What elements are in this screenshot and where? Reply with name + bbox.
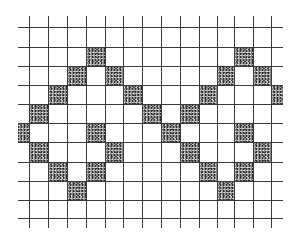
shaded-cell bbox=[234, 123, 253, 142]
shaded-cell bbox=[67, 181, 86, 200]
shaded-cell bbox=[18, 123, 29, 142]
shaded-cell bbox=[199, 85, 217, 104]
shaded-cell bbox=[217, 66, 234, 85]
shaded-cell bbox=[105, 66, 123, 85]
shaded-cell bbox=[29, 142, 48, 162]
grid-line-horizontal bbox=[18, 200, 283, 201]
shaded-cell bbox=[29, 104, 48, 123]
shaded-cell bbox=[234, 162, 253, 181]
shaded-cell bbox=[86, 162, 105, 181]
grid-line-horizontal bbox=[18, 218, 283, 219]
shaded-cell bbox=[234, 47, 253, 66]
shaded-cell bbox=[123, 85, 142, 104]
grid-line-horizontal bbox=[18, 85, 283, 86]
shaded-cell bbox=[180, 104, 199, 123]
shaded-cell bbox=[48, 162, 67, 181]
shaded-cell bbox=[217, 181, 234, 200]
grid-diagram bbox=[0, 0, 303, 243]
grid-line-horizontal bbox=[18, 142, 283, 143]
grid-line-horizontal bbox=[18, 181, 283, 182]
shaded-cell bbox=[271, 85, 283, 104]
shaded-cell bbox=[86, 47, 105, 66]
grid-line-horizontal bbox=[18, 47, 283, 48]
grid-line-horizontal bbox=[18, 27, 283, 28]
shaded-cell bbox=[48, 85, 67, 104]
shaded-cell bbox=[142, 104, 161, 123]
shaded-cell bbox=[253, 142, 271, 162]
shaded-cell bbox=[199, 162, 217, 181]
shaded-cell bbox=[67, 66, 86, 85]
shaded-cell bbox=[161, 123, 180, 142]
grid-line-horizontal bbox=[18, 104, 283, 105]
shaded-cell bbox=[86, 123, 105, 142]
shaded-cell bbox=[105, 142, 123, 162]
shaded-cell bbox=[180, 142, 199, 162]
grid-line-horizontal bbox=[18, 123, 283, 124]
shaded-cell bbox=[253, 66, 271, 85]
grid-line-horizontal bbox=[18, 66, 283, 67]
grid-line-horizontal bbox=[18, 162, 283, 163]
